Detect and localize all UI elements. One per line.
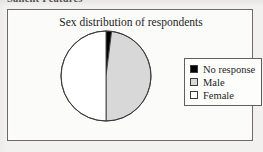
figure-page: Salient Features Sex distribution of res… — [0, 0, 263, 152]
legend-swatch-female — [190, 91, 198, 99]
pie-chart-svg — [60, 30, 152, 122]
legend-label-male: Male — [203, 77, 225, 88]
cutoff-running-heading: Salient Features — [7, 0, 127, 3]
legend-label-female: Female — [203, 90, 234, 101]
figure-frame: Sex distribution of respondents No respo… — [7, 9, 253, 141]
chart-title: Sex distribution of respondents — [16, 16, 246, 28]
pie-chart — [60, 30, 152, 122]
chart-legend: No response Male Female — [184, 58, 262, 106]
legend-swatch-male — [190, 78, 198, 86]
legend-swatch-no-response — [190, 65, 198, 73]
legend-item-no-response[interactable]: No response — [190, 63, 255, 75]
legend-label-no-response: No response — [203, 64, 255, 75]
pie-slice[interactable] — [61, 31, 106, 121]
pie-slice[interactable] — [106, 31, 151, 121]
legend-item-male[interactable]: Male — [190, 76, 255, 88]
legend-item-female[interactable]: Female — [190, 89, 255, 101]
